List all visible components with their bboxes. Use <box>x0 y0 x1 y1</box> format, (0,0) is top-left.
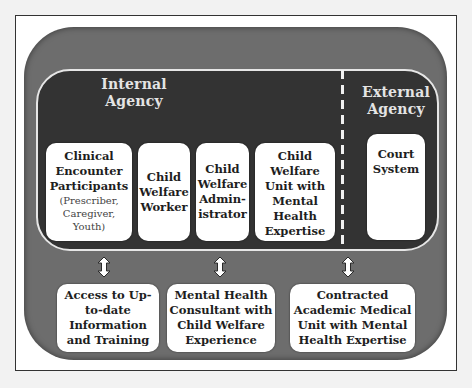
double-arrow-icon <box>97 257 111 277</box>
child-welfare-mental-health-unit-box: Child Welfare Unit with Mental Health Ex… <box>255 143 335 241</box>
internal-agency-title: Internal Agency <box>84 76 184 110</box>
box-line: Health Expertise <box>298 333 406 348</box>
box-line: Access to Up- <box>64 288 151 303</box>
box-line: Academic Medical <box>294 303 412 318</box>
box-line: Worker <box>140 200 187 215</box>
box-line: Contracted <box>317 288 389 303</box>
box-line: Expertise <box>265 224 326 239</box>
external-agency-title: External Agency <box>356 84 436 118</box>
box-line: Court <box>378 147 415 162</box>
box-line: System <box>373 162 419 177</box>
box-line: Clinical <box>64 149 113 164</box>
title-line: Agency <box>84 93 184 110</box>
box-line: Welfare <box>139 185 188 200</box>
box-line: Welfare <box>270 164 319 179</box>
title-line: Agency <box>356 101 436 118</box>
box-subline: Youth) <box>73 220 106 233</box>
academic-medical-unit-box: Contracted Academic Medical Unit with Me… <box>290 284 415 352</box>
box-line: and Training <box>67 333 150 348</box>
box-line: Mental Health <box>174 288 267 303</box>
internal-external-divider <box>341 70 344 250</box>
title-line: Internal <box>84 76 184 93</box>
double-arrow-icon <box>213 257 227 277</box>
box-line: Participants <box>50 179 129 194</box>
clinical-encounter-participants-box: Clinical Encounter Participants (Prescri… <box>46 143 132 241</box>
box-line: Child Welfare <box>177 318 265 333</box>
box-line: Experience <box>185 333 256 348</box>
box-line: istrator <box>198 207 247 222</box>
box-line: Child <box>147 170 181 185</box>
box-line: Child <box>205 162 239 177</box>
box-subline: (Prescriber, <box>59 194 118 207</box>
box-line: Admin- <box>199 192 246 207</box>
box-line: Unit with Mental <box>298 318 408 333</box>
box-line: Consultant with <box>170 303 273 318</box>
box-line: Unit with <box>265 179 325 194</box>
box-line: Encounter <box>55 164 122 179</box>
mental-health-consultant-box: Mental Health Consultant with Child Welf… <box>167 284 275 352</box>
box-subline: Caregiver, <box>63 207 115 220</box>
box-line: Mental <box>272 194 318 209</box>
child-welfare-administrator-box: Child Welfare Admin- istrator <box>196 143 249 241</box>
box-line: Information <box>69 318 147 333</box>
box-line: Welfare <box>198 177 247 192</box>
information-training-box: Access to Up- to-date Information and Tr… <box>57 284 159 352</box>
court-system-box: Court System <box>367 134 425 240</box>
double-arrow-icon <box>341 257 355 277</box>
child-welfare-worker-box: Child Welfare Worker <box>138 143 190 241</box>
title-line: External <box>356 84 436 101</box>
box-line: to-date <box>85 303 131 318</box>
box-line: Child <box>278 149 312 164</box>
box-line: Health <box>273 209 317 224</box>
